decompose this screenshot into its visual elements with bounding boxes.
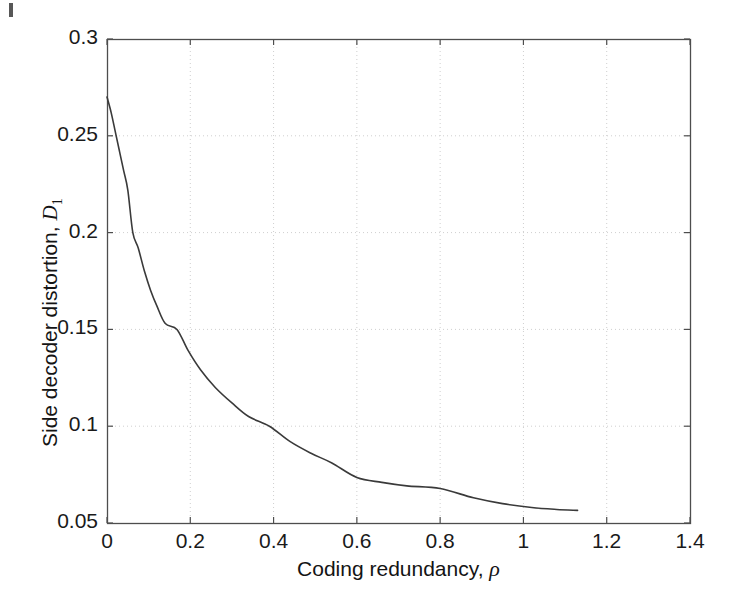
x-tick-label: 0.4 [234, 529, 314, 553]
x-tick-label: 1 [483, 529, 563, 553]
x-axis-title: Coding redundancy, ρ [107, 556, 690, 582]
x-tick-label: 0.6 [317, 529, 397, 553]
plot-frame-border [108, 40, 691, 524]
y-axis-title: Side decoder distortion, D1 [38, 198, 66, 447]
x-axis-title-text: Coding redundancy, [297, 557, 489, 580]
chart-plot-area [0, 0, 738, 602]
grid-lines [107, 39, 690, 523]
x-tick-label: 0 [67, 529, 147, 553]
x-tick-label: 1.2 [567, 529, 647, 553]
y-tick-label: 0.3 [69, 25, 98, 49]
d-symbol: D [38, 205, 62, 220]
y-axis-title-text: Side decoder distortion, [38, 221, 61, 447]
x-tick-label: 0.8 [400, 529, 480, 553]
rho-symbol: ρ [489, 556, 500, 581]
x-tick-label: 1.4 [650, 529, 730, 553]
tick-marks [107, 39, 690, 523]
data-series-group [107, 97, 578, 510]
figure-canvas: 0.050.10.150.20.250.3 00.20.40.60.811.21… [0, 0, 738, 602]
y-tick-label: 0.2 [69, 219, 98, 243]
y-tick-label: 0.25 [57, 122, 98, 146]
y-tick-label: 0.1 [69, 412, 98, 436]
data-line-series-0 [107, 97, 578, 510]
d-subscript: 1 [50, 198, 65, 205]
x-tick-label: 0.2 [150, 529, 230, 553]
